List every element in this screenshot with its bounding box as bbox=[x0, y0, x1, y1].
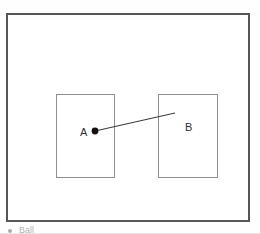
rectangle-b-label: B bbox=[185, 122, 193, 133]
rectangle-a-label: A bbox=[80, 127, 88, 138]
caption-bullet-icon bbox=[8, 229, 12, 233]
rectangle-b bbox=[158, 94, 218, 178]
figure-border: A B bbox=[6, 13, 250, 222]
scan-crop-edge bbox=[0, 233, 260, 234]
